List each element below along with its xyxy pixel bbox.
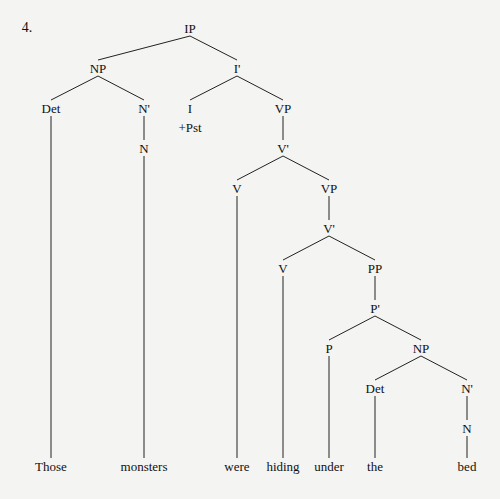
tree-edge [421, 356, 467, 380]
tree-node-n-bar: N' [138, 102, 150, 115]
leaf-word: under [314, 460, 344, 473]
tree-edges [0, 0, 500, 499]
tree-node-pp: PP [368, 262, 382, 275]
tree-node-n-bar: N' [461, 382, 473, 395]
leaf-word: were [224, 460, 249, 473]
tree-node-det: Det [366, 382, 385, 395]
tree-node-v: V [278, 262, 287, 275]
tree-node-np: NP [413, 342, 430, 355]
tree-edge [375, 356, 421, 380]
tree-edge [98, 36, 190, 60]
leaf-word: the [367, 460, 383, 473]
tree-edge [237, 156, 283, 180]
tree-edge [329, 316, 375, 340]
tree-edge [283, 236, 329, 260]
leaf-word: Those [35, 460, 67, 473]
tree-edge [237, 76, 283, 100]
tree-node-vp: VP [321, 182, 338, 195]
item-number: 4. [22, 21, 33, 35]
tree-node-v: V [232, 182, 241, 195]
tree-node-v-bar: V' [277, 142, 289, 155]
tree-edge [98, 76, 144, 100]
tree-node-vp: VP [275, 102, 292, 115]
tree-node-np: NP [90, 62, 107, 75]
tree-edge [375, 316, 421, 340]
tree-node-n: N [139, 142, 148, 155]
syntax-tree-diagram: 4. IPNPI'DetN'NI+PstVPV'VVPV'VPPP'PNPDet… [0, 0, 500, 499]
tree-node-i: I [188, 102, 192, 115]
tree-node-ip: IP [184, 22, 196, 35]
tree-edge [190, 36, 237, 60]
leaf-word: monsters [121, 460, 168, 473]
tree-node-n: N [462, 422, 471, 435]
tree-node-p: P [325, 342, 332, 355]
tree-node-plus-pst: +Pst [178, 121, 201, 134]
tree-edge [329, 236, 375, 260]
leaf-word: hiding [266, 460, 299, 473]
tree-edge [283, 156, 329, 180]
tree-node-det: Det [42, 102, 61, 115]
tree-node-i-bar: I' [234, 62, 241, 75]
tree-node-p-bar: P' [370, 302, 380, 315]
tree-node-v-bar: V' [323, 222, 335, 235]
tree-edge [51, 76, 98, 100]
tree-edge [190, 76, 237, 100]
leaf-word: bed [458, 460, 477, 473]
